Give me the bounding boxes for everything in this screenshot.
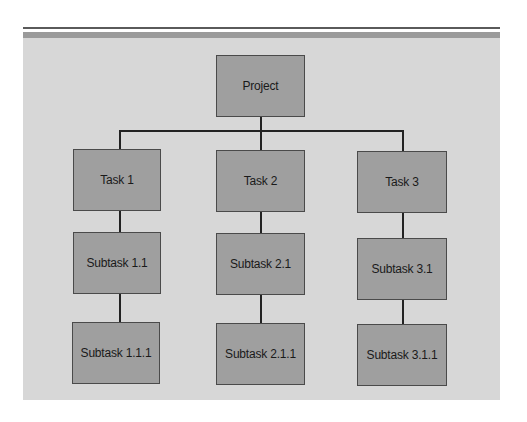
node-label: Project [243, 79, 279, 93]
connector-subtask-2-1-to-2-1-1 [260, 295, 262, 324]
top-rule [23, 27, 500, 29]
node-label: Subtask 2.1 [230, 257, 291, 271]
node-label: Subtask 3.1.1 [367, 348, 438, 362]
connector-subtask-1-1-to-1-1-1 [119, 294, 121, 323]
connector-bar-to-task-1 [119, 130, 121, 150]
node-label: Subtask 1.1.1 [81, 346, 152, 360]
connector-task-1-to-subtask-1-1 [119, 211, 121, 233]
connector-subtask-3-1-to-3-1-1 [402, 300, 404, 325]
node-label: Subtask 3.1 [371, 262, 432, 276]
node-label: Subtask 2.1.1 [225, 347, 296, 361]
connector-task-2-to-subtask-2-1 [260, 212, 262, 234]
node-task-1: Task 1 [73, 149, 161, 211]
node-task-3: Task 3 [357, 151, 447, 213]
panel-header-band [23, 32, 500, 38]
node-label: Task 1 [100, 173, 133, 187]
node-label: Subtask 1.1 [86, 256, 147, 270]
node-label: Task 2 [244, 174, 277, 188]
node-subtask-1-1-1: Subtask 1.1.1 [72, 322, 160, 384]
node-subtask-2-1: Subtask 2.1 [216, 233, 305, 295]
node-subtask-3-1: Subtask 3.1 [357, 238, 447, 300]
node-task-2: Task 2 [216, 150, 305, 212]
connector-bar-to-task-2 [260, 130, 262, 150]
connector-bar-to-task-3 [402, 130, 404, 151]
node-subtask-2-1-1: Subtask 2.1.1 [216, 323, 305, 385]
node-project: Project [216, 55, 305, 117]
node-subtask-3-1-1: Subtask 3.1.1 [357, 324, 447, 386]
node-label: Task 3 [385, 175, 418, 189]
node-subtask-1-1: Subtask 1.1 [73, 232, 161, 294]
connector-task-3-to-subtask-3-1 [402, 213, 404, 239]
